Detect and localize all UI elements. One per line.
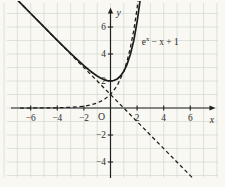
exponential-function-graph: −6−4−2246−4−2246 x y O ex − x + 1 [0, 0, 225, 187]
axes: −6−4−2246−4−2246 [11, 8, 216, 179]
y-tick-label: 2 [101, 76, 106, 86]
x-tick-label: −2 [79, 113, 89, 123]
y-tick-label: 4 [101, 49, 106, 59]
x-axis-label: x [209, 114, 215, 125]
labels: x y O ex − x + 1 [98, 7, 215, 125]
y-tick-label: −4 [96, 157, 106, 167]
x-tick-label: 6 [188, 113, 193, 123]
y-tick-label: −2 [96, 130, 106, 140]
x-tick-label: −4 [52, 113, 62, 123]
function-annotation: ex − x + 1 [142, 35, 179, 47]
x-axis-arrow-icon [210, 105, 216, 110]
y-axis-label: y [116, 7, 122, 18]
annotation-rest: − x + 1 [149, 37, 179, 47]
y-axis-arrow-icon [108, 8, 113, 14]
x-tick-label: 2 [135, 113, 140, 123]
origin-label: O [98, 111, 105, 122]
x-tick-label: −6 [26, 113, 36, 123]
x-tick-label: 4 [161, 113, 166, 123]
plot-canvas: −6−4−2246−4−2246 x y O ex − x + 1 [0, 0, 225, 187]
y-tick-label: 6 [101, 22, 106, 32]
